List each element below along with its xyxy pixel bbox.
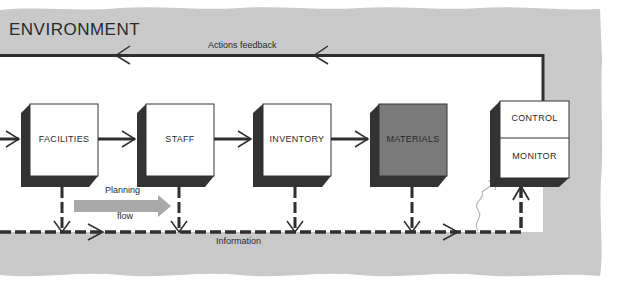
control-label: CONTROL [500,113,569,123]
actions-feedback-label: Actions feedback [208,40,277,50]
staff-label: STAFF [146,134,214,144]
inventory-label: INVENTORY [263,134,331,144]
flow-label: flow [117,211,133,221]
information-label: Information [216,236,261,246]
monitor-label: MONITOR [500,151,569,161]
facilities-box [21,104,98,187]
inventory-box [253,104,331,187]
planning-label: Planning [105,185,140,195]
environment-title: ENVIRONMENT [9,20,140,40]
facilities-label: FACILITIES [30,134,98,144]
materials-label: MATERIALS [379,134,447,144]
materials-box [370,104,447,187]
staff-box [137,104,214,187]
